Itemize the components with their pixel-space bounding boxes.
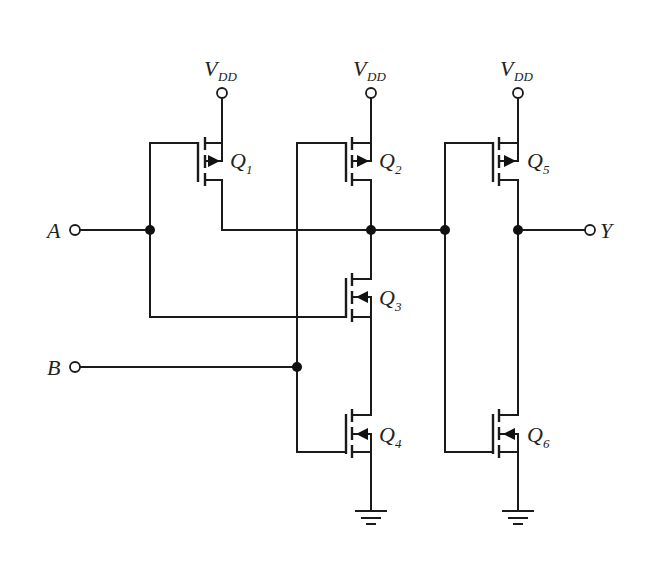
transistor-q1: Q 1 — [150, 98, 253, 230]
transistor-q6: Q 6 — [445, 230, 550, 511]
transistor-q5: Q 5 — [445, 98, 550, 230]
transistor-q3: Q 3 — [150, 230, 402, 415]
q4-subscript: 4 — [395, 436, 402, 451]
junction-dot — [145, 225, 155, 235]
junction-dot — [292, 362, 302, 372]
input-a-label: A — [45, 218, 61, 243]
vdd-terminal-circle — [217, 88, 227, 98]
junction-dot — [440, 225, 450, 235]
vdd-subscript: DD — [217, 69, 237, 84]
q6-label: Q — [527, 422, 543, 447]
vdd-subscript: DD — [366, 69, 386, 84]
output-y-label: Y — [600, 218, 615, 243]
nmos-arrow-icon — [503, 428, 515, 440]
q3-subscript: 3 — [394, 299, 402, 314]
pmos-arrow-icon — [504, 155, 516, 167]
q1-subscript: 1 — [246, 162, 253, 177]
junction-dot — [513, 225, 523, 235]
nmos-arrow-icon — [356, 428, 368, 440]
circuit-diagram: V DD V DD V DD Q 1 Q 2 — [0, 0, 649, 567]
input-b-label: B — [47, 355, 60, 380]
pmos-arrow-icon — [357, 155, 369, 167]
schematic-svg: V DD V DD V DD Q 1 Q 2 — [0, 0, 649, 567]
q4-label: Q — [379, 422, 395, 447]
q5-label: Q — [527, 148, 543, 173]
input-a-terminal: A — [45, 218, 80, 243]
nmos-arrow-icon — [356, 291, 368, 303]
q2-subscript: 2 — [395, 162, 402, 177]
q6-subscript: 6 — [543, 436, 550, 451]
vdd-terminal-q5: V DD — [500, 56, 533, 98]
interconnect — [80, 143, 585, 452]
q2-label: Q — [379, 148, 395, 173]
terminal-circle — [70, 362, 80, 372]
terminal-circle — [70, 225, 80, 235]
transistor-q4: Q 4 — [297, 409, 402, 511]
vdd-terminal-circle — [513, 88, 523, 98]
input-b-terminal: B — [47, 355, 80, 380]
q3-label: Q — [379, 285, 395, 310]
junction-dot — [366, 225, 376, 235]
output-y-terminal: Y — [585, 218, 615, 243]
terminal-circle — [585, 225, 595, 235]
vdd-subscript: DD — [513, 69, 533, 84]
ground-icon — [356, 511, 386, 524]
vdd-terminal-q2: V DD — [353, 56, 386, 98]
q5-subscript: 5 — [543, 162, 550, 177]
pmos-arrow-icon — [208, 155, 220, 167]
ground-icon — [503, 511, 533, 524]
vdd-terminal-circle — [366, 88, 376, 98]
q1-label: Q — [230, 148, 246, 173]
vdd-terminal-q1: V DD — [204, 56, 237, 98]
transistor-q2: Q 2 — [297, 98, 402, 230]
